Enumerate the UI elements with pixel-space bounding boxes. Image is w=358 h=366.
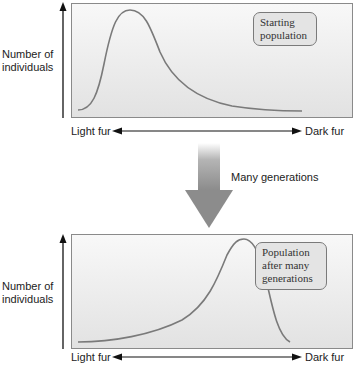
bottom-y-axis-label: Number of individuals: [2, 280, 64, 306]
callout-line1: Starting: [260, 16, 310, 29]
top-x-axis-arrow: [112, 128, 302, 135]
bottom-x-axis-arrow: [112, 354, 302, 361]
top-y-axis-arrow: [60, 2, 67, 118]
callout-line3: generations: [262, 272, 320, 285]
many-generations-label: Many generations: [231, 171, 318, 184]
callout-line2: after many: [262, 259, 320, 272]
top-x-label-dark-fur: Dark fur: [305, 125, 344, 138]
bottom-ylabel-line2: individuals: [2, 293, 64, 306]
callout-line2: population: [260, 29, 310, 42]
bottom-x-label-dark-fur: Dark fur: [305, 351, 344, 364]
callout-line1: Population: [262, 246, 320, 259]
bottom-chart-panel: Population after many generations: [71, 234, 353, 349]
final-population-callout: Population after many generations: [255, 242, 327, 290]
top-chart-panel: Starting population: [71, 3, 353, 118]
bottom-ylabel-line1: Number of: [2, 280, 64, 293]
top-x-label-light-fur: Light fur: [71, 125, 111, 138]
many-generations-arrow: [185, 143, 233, 228]
bottom-x-label-light-fur: Light fur: [71, 351, 111, 364]
starting-population-callout: Starting population: [253, 12, 317, 46]
